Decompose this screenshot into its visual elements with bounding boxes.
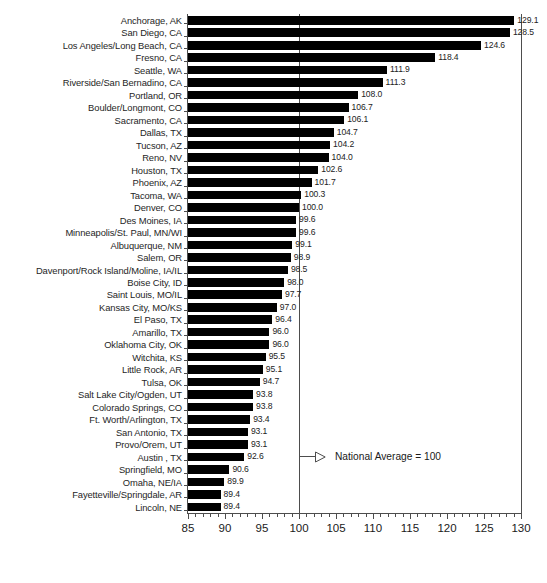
bar xyxy=(188,91,358,100)
category-label: Kansas City, MO/KS xyxy=(99,302,182,313)
bar-chart: Anchorage, AKSan Diego, CALos Angeles/Lo… xyxy=(0,0,547,583)
bar-row: 104.2 xyxy=(188,139,521,152)
bar-row: 111.9 xyxy=(188,64,521,77)
category-label: Lincoln, NE xyxy=(135,502,182,513)
x-axis-tick-label: 115 xyxy=(401,521,419,535)
x-axis-minor-tick xyxy=(306,513,307,517)
bar xyxy=(188,266,288,275)
y-axis-tick xyxy=(184,473,188,474)
x-axis-minor-tick xyxy=(240,513,241,517)
bar-row: 93.8 xyxy=(188,388,521,401)
category-label: Oklahoma City, OK xyxy=(104,339,182,350)
category-label: Anchorage, AK xyxy=(121,15,182,26)
bar-value-label: 118.4 xyxy=(438,52,458,63)
category-label: Dallas, TX xyxy=(140,127,182,138)
category-label: Albuquerque, NM xyxy=(111,240,182,251)
bar-row: 124.6 xyxy=(188,39,521,52)
x-axis-major-tick xyxy=(410,513,411,519)
bar-value-label: 104.7 xyxy=(337,127,358,138)
x-axis-minor-tick xyxy=(388,513,389,517)
bar-row: 106.7 xyxy=(188,101,521,114)
bar-row: 96.0 xyxy=(188,338,521,351)
category-label: Amarillo, TX xyxy=(132,327,182,338)
x-axis-minor-tick xyxy=(380,513,381,517)
y-axis-tick xyxy=(184,485,188,486)
x-axis-minor-tick xyxy=(218,513,219,517)
category-label: Saint Louis, MO/IL xyxy=(107,289,182,300)
x-axis-minor-tick xyxy=(255,513,256,517)
x-axis-minor-tick xyxy=(358,513,359,517)
bar-row: 90.6 xyxy=(188,463,521,476)
bar xyxy=(188,66,387,75)
y-axis-tick xyxy=(184,161,188,162)
x-axis-minor-tick xyxy=(195,513,196,517)
bar xyxy=(188,303,277,312)
bar-row: 96.4 xyxy=(188,313,521,326)
bar xyxy=(188,440,248,449)
bar xyxy=(188,340,269,349)
y-axis-tick xyxy=(184,198,188,199)
x-axis-major-tick xyxy=(336,513,337,519)
bar xyxy=(188,216,296,225)
bar-value-label: 111.3 xyxy=(386,77,406,88)
category-label: Boulder/Longmont, CO xyxy=(88,102,182,113)
bar xyxy=(188,390,253,399)
y-axis-tick xyxy=(184,248,188,249)
bar-row: 93.1 xyxy=(188,426,521,439)
category-label: Phoenix, AZ xyxy=(133,177,182,188)
bar xyxy=(188,290,282,299)
bar-value-label: 98.5 xyxy=(291,264,307,275)
x-axis-major-tick xyxy=(299,513,300,519)
y-axis-tick xyxy=(184,410,188,411)
y-axis-tick xyxy=(184,111,188,112)
bar-value-label: 104.0 xyxy=(332,152,353,163)
category-label: Omaha, NE/IA xyxy=(123,477,182,488)
bar xyxy=(188,128,334,137)
x-axis-minor-tick xyxy=(514,513,515,517)
y-axis-tick xyxy=(184,448,188,449)
bar-value-label: 100.3 xyxy=(304,189,325,200)
bar-row: 100.3 xyxy=(188,189,521,202)
x-axis-major-tick xyxy=(484,513,485,519)
bar xyxy=(188,478,224,487)
bar-value-label: 108.0 xyxy=(361,89,382,100)
category-label: Des Moines, IA xyxy=(120,215,182,226)
category-axis-labels: Anchorage, AKSan Diego, CALos Angeles/Lo… xyxy=(0,14,186,513)
x-axis-tick-label: 90 xyxy=(219,521,232,535)
y-axis-tick xyxy=(184,260,188,261)
bar-value-label: 95.5 xyxy=(269,351,285,362)
bar-row: 94.7 xyxy=(188,376,521,389)
x-axis-minor-tick xyxy=(277,513,278,517)
annotation-label: National Average = 100 xyxy=(335,451,441,462)
bar-value-label: 128.5 xyxy=(513,27,534,38)
bar-value-label: 92.6 xyxy=(247,451,263,462)
bar xyxy=(188,103,349,112)
bar-value-label: 89.4 xyxy=(224,501,240,512)
bar xyxy=(188,415,250,424)
bar-value-label: 94.7 xyxy=(263,376,279,387)
y-axis-tick xyxy=(184,173,188,174)
bar xyxy=(188,403,253,412)
x-axis-minor-tick xyxy=(491,513,492,517)
y-axis-tick xyxy=(184,298,188,299)
bar-value-label: 93.1 xyxy=(251,426,267,437)
bar-row: 102.6 xyxy=(188,164,521,177)
y-axis-tick xyxy=(184,148,188,149)
bar xyxy=(188,253,291,262)
bar xyxy=(188,178,312,187)
bar-row: 104.7 xyxy=(188,126,521,139)
category-label: Los Angeles/Long Beach, CA xyxy=(63,40,182,51)
bar-value-label: 106.1 xyxy=(347,114,368,125)
bar xyxy=(188,503,221,512)
bar-value-label: 98.9 xyxy=(294,252,310,263)
bar xyxy=(188,490,221,499)
y-axis-tick xyxy=(184,61,188,62)
category-label: Minneapolis/St. Paul, MN/WI xyxy=(65,227,182,238)
x-axis-minor-tick xyxy=(269,513,270,517)
bar xyxy=(188,141,330,150)
x-axis-minor-tick xyxy=(469,513,470,517)
category-label: Sacramento, CA xyxy=(115,115,182,126)
bar-value-label: 89.9 xyxy=(227,476,243,487)
category-label: San Antonio, TX xyxy=(116,427,182,438)
x-axis-minor-tick xyxy=(284,513,285,517)
